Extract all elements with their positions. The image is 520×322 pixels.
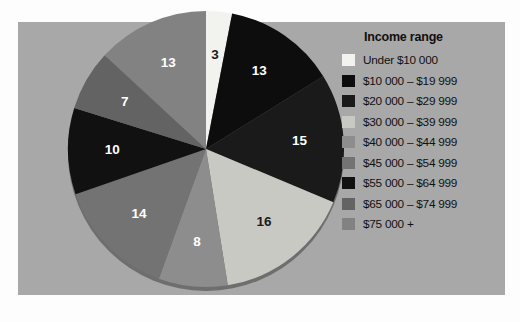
- legend-label: $55 000 – $64 999: [363, 176, 457, 190]
- legend-label: $10 000 – $19 999: [363, 74, 457, 88]
- legend-item: $65 000 – $74 999: [342, 194, 517, 215]
- legend-item: $75 000 +: [342, 214, 517, 235]
- legend-title: Income range: [364, 30, 517, 44]
- legend-item: Under $10 000: [342, 50, 517, 71]
- legend: Income range Under $10 000$10 000 – $19 …: [342, 30, 517, 235]
- legend-item: $30 000 – $39 999: [342, 112, 517, 133]
- legend-swatch: [342, 218, 355, 230]
- legend-item: $45 000 – $54 999: [342, 153, 517, 174]
- pie-slice-label: 7: [121, 94, 129, 109]
- legend-swatch: [342, 136, 355, 148]
- legend-item: $20 000 – $29 999: [342, 91, 517, 112]
- pie-slice-label: 14: [132, 206, 148, 221]
- legend-swatch: [342, 198, 355, 210]
- legend-label: $75 000 +: [363, 217, 414, 231]
- legend-swatch: [342, 157, 355, 169]
- pie-slice-label: 15: [292, 133, 308, 148]
- legend-label: Under $10 000: [363, 53, 438, 67]
- legend-label: $30 000 – $39 999: [363, 115, 457, 129]
- legend-label: $20 000 – $29 999: [363, 94, 457, 108]
- legend-item: $40 000 – $44 999: [342, 132, 517, 153]
- pie-slice-label: 8: [193, 234, 201, 249]
- pie-chart: 313151681410713: [64, 7, 348, 291]
- pie-chart-svg: 313151681410713: [64, 7, 348, 291]
- legend-label: $45 000 – $54 999: [363, 156, 457, 170]
- legend-rows: Under $10 000$10 000 – $19 999$20 000 – …: [342, 50, 517, 235]
- figure-panel: 313151681410713 Income range Under $10 0…: [18, 22, 505, 295]
- legend-swatch: [342, 116, 355, 128]
- pie-slice-label: 3: [211, 47, 219, 62]
- legend-swatch: [342, 95, 355, 107]
- legend-swatch: [342, 75, 355, 87]
- legend-swatch: [342, 177, 355, 189]
- legend-swatch: [342, 54, 355, 66]
- legend-item: $10 000 – $19 999: [342, 71, 517, 92]
- pie-slice-label: 16: [256, 214, 272, 229]
- pie-slice-label: 10: [105, 142, 120, 157]
- legend-label: $65 000 – $74 999: [363, 197, 457, 211]
- legend-label: $40 000 – $44 999: [363, 135, 457, 149]
- legend-item: $55 000 – $64 999: [342, 173, 517, 194]
- pie-slice-label: 13: [252, 63, 268, 78]
- pie-slice-label: 13: [161, 55, 177, 70]
- chart-screenshot: 313151681410713 Income range Under $10 0…: [0, 0, 520, 322]
